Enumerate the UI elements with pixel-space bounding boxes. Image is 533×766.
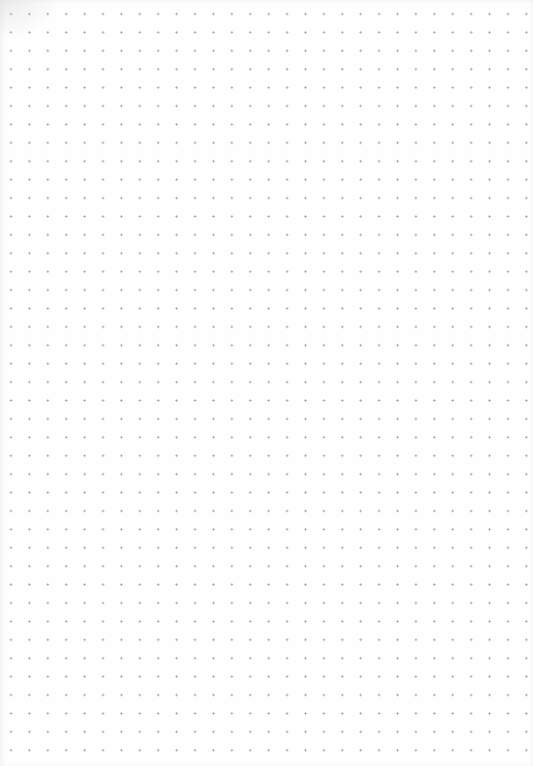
dot-grid-pattern <box>0 0 533 766</box>
dot-grid-paper <box>0 0 533 766</box>
